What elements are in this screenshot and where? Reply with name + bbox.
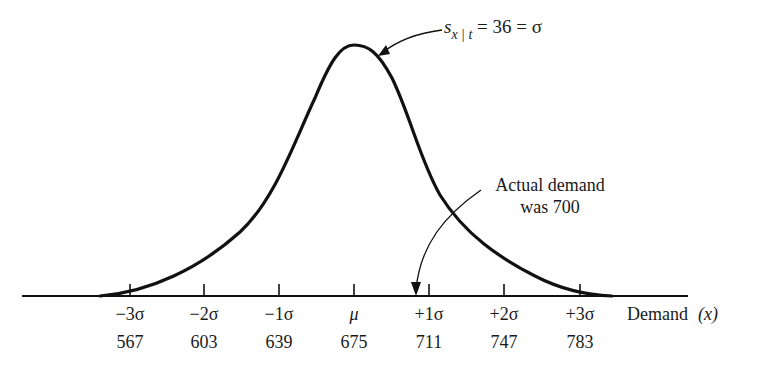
normal-distribution-diagram: sx | t = 36 = σ Actual demand was 700 −3…	[0, 0, 769, 369]
value-783: 783	[567, 332, 594, 352]
label-plus-3-sigma: +3σ	[566, 304, 595, 324]
normal-curve	[100, 45, 612, 296]
sigma-s: s	[444, 16, 451, 37]
sigma-equals: = 36 = σ	[472, 16, 542, 37]
x-axis-title: Demand(x)	[627, 304, 718, 325]
value-675: 675	[341, 332, 368, 352]
value-747: 747	[491, 332, 518, 352]
value-639: 639	[266, 332, 293, 352]
label-plus-2-sigma: +2σ	[490, 304, 519, 324]
label-plus-1-sigma: +1σ	[415, 304, 444, 324]
label-minus-2-sigma: −2σ	[190, 304, 219, 324]
value-603: 603	[191, 332, 218, 352]
x-axis-title-text: Demand	[627, 304, 688, 324]
label-mean: μ	[348, 304, 358, 324]
sigma-subscript: x | t	[450, 27, 473, 42]
value-711: 711	[416, 332, 442, 352]
sigma-annotation-arrow	[378, 30, 442, 56]
x-axis-title-var: (x)	[698, 304, 718, 325]
value-tick-labels: 567 603 639 675 711 747 783	[117, 332, 594, 352]
x-axis-ticks	[130, 284, 580, 296]
value-567: 567	[117, 332, 144, 352]
sigma-annotation: sx | t = 36 = σ	[444, 16, 542, 42]
label-minus-3-sigma: −3σ	[116, 304, 145, 324]
actual-demand-label-line2: was 700	[520, 197, 580, 217]
sigma-tick-labels: −3σ −2σ −1σ μ +1σ +2σ +3σ	[116, 304, 595, 324]
actual-demand-label-line1: Actual demand	[495, 175, 604, 195]
label-minus-1-sigma: −1σ	[265, 304, 294, 324]
